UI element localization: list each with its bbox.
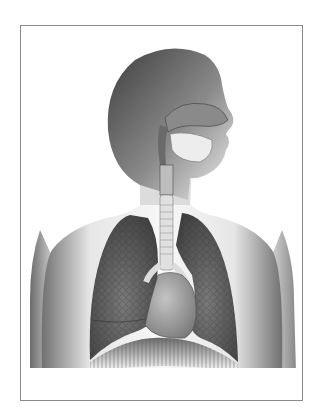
bottom-fade [21,368,302,400]
trachea [160,195,173,270]
respiratory-system-illustration [0,0,320,417]
larynx [160,165,173,195]
